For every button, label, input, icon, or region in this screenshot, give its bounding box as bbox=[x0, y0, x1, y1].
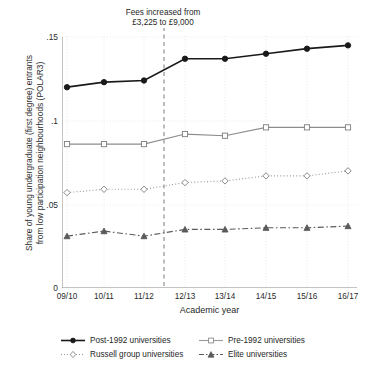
series-layer bbox=[64, 43, 351, 239]
legend-item-post-1992[interactable]: Post-1992 universities bbox=[60, 334, 171, 346]
legend-key-elite bbox=[198, 349, 224, 360]
data-point bbox=[141, 78, 146, 83]
data-point bbox=[64, 85, 69, 90]
axis-ticks bbox=[62, 37, 348, 288]
data-point bbox=[141, 186, 147, 192]
legend-item-pre-1992[interactable]: Pre-1992 universities bbox=[198, 334, 305, 346]
chart-figure: Share of young undergraduate (first degr… bbox=[0, 0, 367, 366]
legend-label-pre-1992: Pre-1992 universities bbox=[228, 336, 305, 345]
series-4 bbox=[64, 223, 351, 239]
series-1 bbox=[64, 43, 350, 90]
data-point bbox=[182, 179, 188, 185]
axis-lines bbox=[62, 37, 357, 288]
x-tick-7: 16/17 bbox=[328, 292, 367, 301]
data-point bbox=[101, 186, 107, 192]
y-axis-title-wrap: Share of young undergraduate (first degr… bbox=[0, 0, 34, 300]
x-tick-2: 11/12 bbox=[124, 292, 164, 301]
data-point bbox=[64, 189, 70, 195]
series-2 bbox=[64, 125, 350, 147]
y-axis-tick-labels: .15 .1 .05 0 bbox=[32, 0, 58, 300]
data-point bbox=[263, 125, 268, 130]
data-point bbox=[345, 125, 350, 130]
data-point bbox=[222, 178, 228, 184]
fee-increase-annotation: Fees increased from £3,225 to £9,000 bbox=[88, 8, 238, 28]
data-point bbox=[345, 43, 350, 48]
data-point bbox=[101, 79, 106, 84]
x-axis-tick-labels: 09/10 10/11 11/12 12/13 13/14 14/15 15/1… bbox=[62, 292, 357, 306]
chart-legend: Post-1992 universities Russell group uni… bbox=[34, 334, 334, 362]
x-tick-0: 09/10 bbox=[47, 292, 87, 301]
grid-horizontal bbox=[62, 37, 357, 288]
x-tick-3: 12/13 bbox=[165, 292, 205, 301]
grid-vertical bbox=[67, 36, 348, 288]
data-point bbox=[263, 173, 269, 179]
series-3 bbox=[64, 168, 351, 196]
data-point bbox=[182, 131, 187, 136]
x-tick-5: 14/15 bbox=[246, 292, 286, 301]
legend-label-elite: Elite universities bbox=[228, 350, 287, 359]
legend-label-post-1992: Post-1992 universities bbox=[90, 336, 171, 345]
data-point bbox=[304, 173, 310, 179]
data-point bbox=[101, 141, 106, 146]
data-point bbox=[182, 56, 187, 61]
plot-area bbox=[62, 28, 357, 288]
data-point bbox=[64, 141, 69, 146]
data-point bbox=[141, 141, 146, 146]
legend-label-russell-group: Russell group universities bbox=[90, 350, 183, 359]
legend-key-pre-1992 bbox=[198, 335, 224, 346]
x-tick-4: 13/14 bbox=[205, 292, 245, 301]
x-tick-1: 10/11 bbox=[84, 292, 124, 301]
plot-svg bbox=[62, 28, 357, 288]
legend-key-post-1992 bbox=[60, 335, 86, 346]
y-tick-005: .05 bbox=[34, 200, 58, 210]
data-point bbox=[345, 168, 351, 174]
legend-item-elite[interactable]: Elite universities bbox=[198, 348, 287, 360]
data-point bbox=[222, 133, 227, 138]
data-point bbox=[222, 56, 227, 61]
y-tick-015: .15 bbox=[34, 32, 58, 42]
legend-item-russell-group[interactable]: Russell group universities bbox=[60, 348, 183, 360]
data-point bbox=[304, 46, 309, 51]
data-point bbox=[263, 51, 268, 56]
y-tick-01: .1 bbox=[34, 116, 58, 126]
legend-key-russell-group bbox=[60, 349, 86, 360]
x-tick-6: 15/16 bbox=[287, 292, 327, 301]
data-point bbox=[304, 125, 309, 130]
x-axis-title: Academic year bbox=[62, 305, 357, 315]
